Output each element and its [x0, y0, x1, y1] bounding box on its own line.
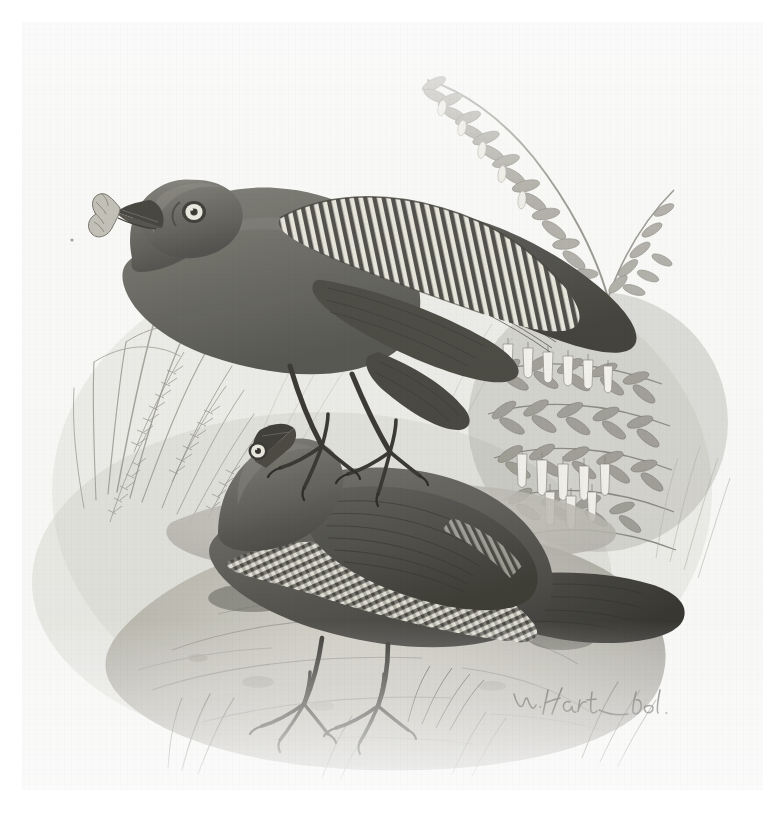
illustration-plate: Two dark plumaged birds with pale irises… [22, 22, 763, 790]
plate-caption [16, 806, 436, 815]
bird-illustration-artwork [22, 22, 763, 790]
scanned-page: Two dark plumaged birds with pale irises… [0, 0, 784, 823]
